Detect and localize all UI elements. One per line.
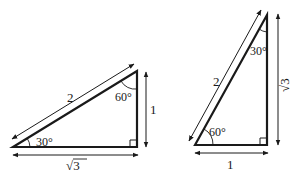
diagram-canvas: 2 1 √3 30° 60° 2 √3 1 60° 30°: [0, 0, 295, 173]
left-angle-60-arc: [121, 81, 137, 89]
left-vertical-label: 1: [150, 102, 157, 117]
right-vertical-label: √3: [277, 78, 292, 92]
left-hypotenuse-label: 2: [67, 90, 74, 105]
left-triangle-shape: [13, 71, 137, 147]
left-angle-30-arc: [27, 138, 30, 147]
left-horizontal-label: √3: [66, 158, 80, 173]
right-hypotenuse-arrow: [189, 10, 261, 141]
right-angle-30-label: 30°: [250, 44, 267, 58]
right-triangle: 2 √3 1 60° 30°: [189, 10, 292, 172]
right-horizontal-label: 1: [227, 157, 234, 172]
left-angle-30-label: 30°: [36, 135, 53, 149]
left-angle-60-label: 60°: [115, 90, 132, 104]
right-triangle-shape: [195, 15, 267, 145]
left-triangle: 2 1 √3 30° 60°: [12, 64, 157, 173]
right-angle-30-arc: [259, 29, 267, 32]
right-angle-60-label: 60°: [209, 125, 226, 139]
right-hypotenuse-label: 2: [213, 74, 220, 89]
